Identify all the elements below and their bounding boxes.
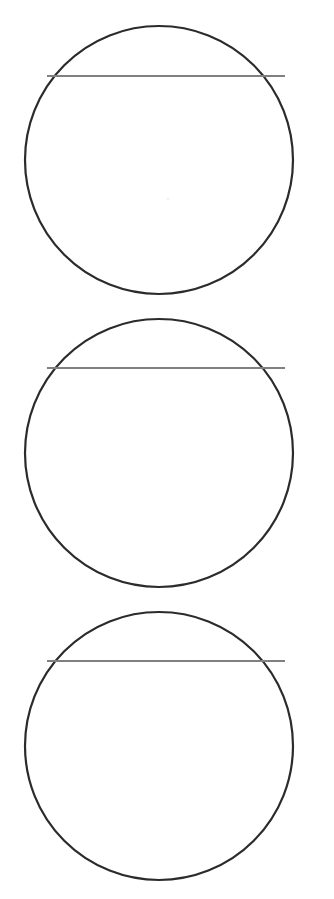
- center-mark-1: [166, 197, 169, 200]
- circle-group-1: [25, 26, 293, 294]
- circle-outline-1: [25, 26, 293, 294]
- circles-diagram: [0, 0, 334, 899]
- circle-outline-3: [25, 612, 293, 880]
- circle-group-2: [25, 319, 293, 587]
- circle-outline-2: [25, 319, 293, 587]
- circle-group-3: [25, 612, 293, 880]
